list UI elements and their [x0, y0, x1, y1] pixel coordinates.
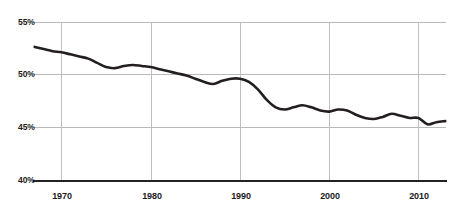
y-tick-label-45: 45%	[18, 122, 35, 132]
x-tick-label-1970: 1970	[52, 191, 72, 201]
x-tick-label-2000: 2000	[320, 191, 340, 201]
line-chart: 55% 50% 45% 40% 1970 1980 1990 2000 2010	[0, 0, 459, 224]
y-axis-tick-labels: 55% 50% 45% 40%	[18, 17, 35, 185]
y-tick-label-55: 55%	[18, 17, 35, 27]
horizontal-gridlines	[33, 23, 446, 128]
y-tick-label-50: 50%	[18, 69, 35, 79]
vertical-gridlines	[62, 22, 419, 180]
x-tick-label-1990: 1990	[231, 191, 251, 201]
x-tick-label-1980: 1980	[142, 191, 162, 201]
x-tick-label-2010: 2010	[409, 191, 429, 201]
x-axis-tick-labels: 1970 1980 1990 2000 2010	[52, 191, 429, 201]
y-tick-label-40: 40%	[18, 175, 35, 185]
chart-canvas: 55% 50% 45% 40% 1970 1980 1990 2000 2010	[0, 0, 459, 224]
